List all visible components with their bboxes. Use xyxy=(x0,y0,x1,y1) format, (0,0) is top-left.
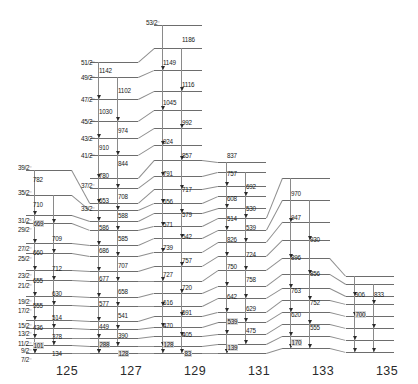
energy-label-131-15: 139 xyxy=(227,344,238,351)
band-link-3-9 xyxy=(266,324,283,335)
energy-label-129-6: 857 xyxy=(182,152,192,159)
energy-label-125-3: 709 xyxy=(52,235,62,242)
arrow-head xyxy=(308,344,312,348)
energy-label-135-2: 700 xyxy=(355,311,366,318)
level-line-133-11 xyxy=(282,348,330,349)
energy-label-125-7: 630 xyxy=(52,290,62,297)
energy-label-127-5: 844 xyxy=(118,160,128,167)
band-link-2-13 xyxy=(202,322,218,328)
spin-label-8: 37/2⁻ xyxy=(81,182,95,190)
band-link-3-7 xyxy=(266,300,283,313)
band-link-2-12 xyxy=(202,312,218,317)
band-link-0-12 xyxy=(72,338,90,339)
energy-label-133-8: 555 xyxy=(310,324,320,331)
energy-label-135-1: 833 xyxy=(374,291,384,298)
level-line-129-23 xyxy=(154,353,202,354)
energy-label-129-13: 739 xyxy=(163,244,173,251)
energy-label-131-2: 692 xyxy=(246,183,256,190)
level-line-125-0 xyxy=(26,170,72,171)
band-link-1-12 xyxy=(138,238,154,246)
band-link-0-7 xyxy=(72,280,90,282)
band-link-1-4 xyxy=(138,128,155,139)
energy-label-131-9: 750 xyxy=(227,263,237,270)
band-link-1-22 xyxy=(138,353,154,354)
energy-label-127-19: 390 xyxy=(118,332,128,339)
spin-label-11: 31/2⁻ xyxy=(18,217,32,225)
energy-label-129-4: 992 xyxy=(182,119,192,126)
band-link-4-2 xyxy=(330,288,346,297)
level-line-125-2 xyxy=(26,215,72,216)
band-link-3-6 xyxy=(266,288,283,299)
energy-label-125-6: 655 xyxy=(33,277,43,284)
energy-label-133-1: 947 xyxy=(291,214,301,221)
energy-label-127-4: 910 xyxy=(99,144,109,151)
band-link-0-5 xyxy=(72,253,90,257)
band-link-2-7 xyxy=(202,242,219,253)
energy-label-131-14: 475 xyxy=(246,327,256,334)
band-link-0-14 xyxy=(72,353,90,354)
spin-label-4: 45/2⁻ xyxy=(81,118,95,126)
energy-label-129-12: 542 xyxy=(182,233,192,240)
band-link-2-11 xyxy=(202,298,218,307)
energy-label-133-9: 170 xyxy=(291,339,302,346)
energy-label-129-1: 1149 xyxy=(163,59,176,66)
isotope-mass-label-129: 129 xyxy=(184,364,206,378)
energy-label-127-11: 585 xyxy=(118,235,128,242)
band-link-2-8 xyxy=(202,256,219,267)
energy-label-127-13: 707 xyxy=(118,262,128,269)
band-link-2-2 xyxy=(202,186,218,190)
energy-label-125-12: 101 xyxy=(33,342,44,349)
energy-label-125-5: 712 xyxy=(52,265,62,272)
energy-label-127-14: 677 xyxy=(99,275,109,282)
energy-label-135-0: 906 xyxy=(355,291,365,298)
energy-label-133-2: 930 xyxy=(310,236,320,243)
spin-label-9: 35/2⁻ xyxy=(18,189,32,197)
energy-label-129-7: 791 xyxy=(163,170,173,177)
band-link-1-14 xyxy=(138,266,154,272)
band-link-2-0 xyxy=(202,160,218,163)
band-link-3-5 xyxy=(266,274,283,287)
energy-label-131-1: 757 xyxy=(227,170,237,177)
arrow-head xyxy=(33,349,37,353)
level-line-125-1 xyxy=(26,195,72,196)
spin-label-5: 43/2⁻ xyxy=(81,135,95,143)
energy-label-127-7: 708 xyxy=(118,193,128,200)
level-line-131-16 xyxy=(218,353,266,354)
band-link-2-5 xyxy=(202,218,218,227)
energy-label-125-0: 782 xyxy=(33,176,43,183)
energy-label-129-15: 727 xyxy=(163,271,173,278)
energy-label-129-16: 720 xyxy=(182,284,192,291)
energy-label-127-3: 974 xyxy=(118,127,128,134)
band-link-2-15 xyxy=(202,344,218,347)
level-line-125-10 xyxy=(26,320,72,321)
spin-label-12: 29/2⁻ xyxy=(18,226,32,234)
level-line-135-7 xyxy=(346,352,394,353)
gamma-133-2 xyxy=(290,222,291,258)
energy-label-125-10: 436 xyxy=(33,324,43,331)
energy-label-125-9: 514 xyxy=(52,314,62,321)
arrow-head xyxy=(116,342,120,346)
spin-label-2: 49/2⁻ xyxy=(81,74,95,82)
arrow-head xyxy=(353,348,357,352)
energy-label-129-8: 717 xyxy=(182,186,192,193)
arrow-head xyxy=(244,340,248,344)
energy-label-131-0: 837 xyxy=(227,152,237,159)
arrow-head xyxy=(372,348,376,352)
level-line-125-6 xyxy=(26,270,72,271)
spin-label-0: 53/2⁻ xyxy=(146,19,160,27)
spin-label-19: 15/2⁻ xyxy=(18,322,32,330)
gamma-127-2 xyxy=(98,99,99,138)
energy-label-131-10: 758 xyxy=(246,276,256,283)
energy-label-129-10: 579 xyxy=(182,211,192,218)
band-link-2-3 xyxy=(202,196,218,204)
spin-label-23: 7/2⁻ xyxy=(21,356,32,364)
band-link-0-11 xyxy=(72,328,90,330)
band-link-0-9 xyxy=(72,305,90,307)
band-link-1-1 xyxy=(138,70,154,78)
band-link-1-2 xyxy=(138,91,154,100)
level-line-125-4 xyxy=(26,243,72,244)
band-link-3-4 xyxy=(266,258,283,271)
spin-label-16: 21/2⁻ xyxy=(18,282,32,290)
energy-label-127-21: 128 xyxy=(118,350,129,357)
band-link-2-14 xyxy=(202,334,218,337)
